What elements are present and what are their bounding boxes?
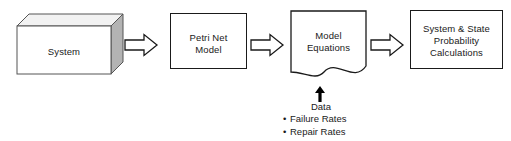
flow-arrow-right-3 bbox=[370, 33, 404, 57]
process-flow-diagram: System Petri Net Model Model Equations S… bbox=[0, 0, 511, 141]
list-item-label: Failure Rates bbox=[290, 113, 347, 124]
node-probability-calculations-label: System & State Probability Calculations bbox=[411, 23, 502, 59]
node-system[interactable]: System bbox=[17, 14, 123, 74]
block-arrow-icon bbox=[124, 33, 158, 57]
node-probability-calculations[interactable]: System & State Probability Calculations bbox=[410, 10, 503, 69]
bullet-icon: • bbox=[283, 113, 290, 126]
node-petri-net-model-label: Petri Net Model bbox=[171, 32, 246, 56]
flow-arrow-right-1 bbox=[124, 33, 158, 57]
list-item-label: Repair Rates bbox=[290, 126, 345, 137]
arrow-up-icon bbox=[314, 86, 326, 102]
list-item: •Repair Rates bbox=[283, 126, 347, 139]
bullet-icon: • bbox=[283, 126, 290, 139]
block-arrow-icon bbox=[370, 33, 404, 57]
data-items-list: •Failure Rates •Repair Rates bbox=[283, 113, 347, 138]
solid-up-arrow-icon bbox=[314, 86, 326, 102]
cube-3d-shape bbox=[17, 14, 123, 74]
flow-arrow-right-2 bbox=[250, 33, 284, 57]
node-model-equations[interactable]: Model Equations bbox=[290, 10, 367, 80]
block-arrow-icon bbox=[250, 33, 284, 57]
node-model-equations-label: Model Equations bbox=[290, 30, 367, 54]
node-system-label: System bbox=[17, 46, 111, 58]
node-petri-net-model[interactable]: Petri Net Model bbox=[170, 13, 247, 69]
data-caption-label: Data bbox=[294, 101, 348, 113]
list-item: •Failure Rates bbox=[283, 113, 347, 126]
